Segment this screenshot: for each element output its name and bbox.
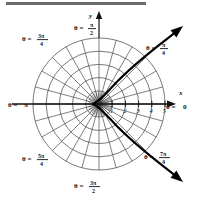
x-tick-1: 1: [110, 107, 113, 114]
theta-3pi-4-denominator: 4: [40, 41, 43, 47]
theta-eq-3pi-2: θ =: [74, 182, 83, 190]
theta-3pi-2-denominator: 2: [92, 188, 95, 194]
y-axis: [96, 11, 102, 38]
angle-label-theta-5pi-4: θ = 5π 4: [22, 153, 48, 167]
theta-pi-2-numerator: π: [90, 22, 94, 28]
theta-0-value: 0: [183, 103, 187, 111]
angle-label-theta-3pi-4: θ = 3π 4: [22, 33, 48, 47]
theta-3pi-2-numerator: 3π: [90, 180, 97, 186]
x-tick-4: 4: [150, 107, 154, 114]
theta-eq-pi-2: θ =: [74, 24, 83, 32]
theta-7pi-4-numerator: 7π: [160, 151, 167, 157]
angle-label-theta-3pi-2: θ = 3π 2: [74, 180, 100, 194]
theta-pi-4-denominator: 4: [162, 50, 165, 56]
polar-plot-svg: y x 1 2 3 4 5 θ = π 2 θ = π 4 θ = 3π 4: [0, 0, 198, 199]
theta-eq-7pi-4: θ =: [144, 153, 153, 161]
angle-label-theta-pi-2: θ = π 2: [74, 22, 96, 36]
theta-pi-4-numerator: π: [162, 42, 166, 48]
theta-pi-value: π: [24, 101, 28, 109]
x-axis-label: x: [178, 89, 183, 97]
y-axis-label: y: [88, 12, 93, 20]
theta-5pi-4-denominator: 4: [40, 161, 43, 167]
theta-eq-3pi-4: θ =: [22, 35, 31, 43]
theta-pi-2-denominator: 2: [90, 30, 93, 36]
theta-7pi-4-denominator: 4: [162, 159, 165, 165]
theta-5pi-4-numerator: 5π: [38, 153, 45, 159]
x-tick-2: 2: [123, 107, 127, 114]
angle-label-theta-7pi-4: θ = 7π 4: [144, 151, 170, 165]
theta-eq-5pi-4: θ =: [22, 155, 31, 163]
header-rule: [6, 2, 146, 5]
x-tick-3: 3: [135, 107, 140, 114]
angle-label-theta-0: θ = 0: [166, 103, 187, 111]
theta-eq-0: θ =: [166, 103, 175, 111]
theta-eq-pi: θ =: [8, 101, 17, 109]
theta-eq-pi-4: θ =: [146, 44, 155, 52]
theta-3pi-4-numerator: 3π: [38, 33, 45, 39]
polar-graph-figure: y x 1 2 3 4 5 θ = π 2 θ = π 4 θ = 3π 4: [0, 0, 198, 199]
angle-label-theta-pi: θ = π: [8, 101, 28, 109]
